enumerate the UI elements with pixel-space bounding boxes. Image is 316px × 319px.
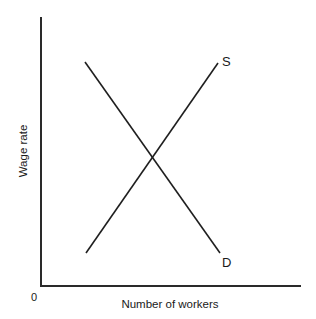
demand-label: D (222, 255, 231, 270)
supply-label: S (222, 54, 231, 69)
x-axis-label: Number of workers (121, 298, 218, 310)
labor-market-diagram: S D 0 Number of workers Wage rate (0, 0, 316, 319)
y-axis-label: Wage rate (17, 125, 29, 178)
origin-label: 0 (31, 291, 37, 303)
